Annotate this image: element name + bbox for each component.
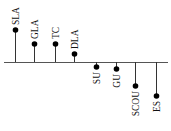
dot-marker <box>53 41 59 47</box>
lollipop-scou: SCOU <box>131 62 141 116</box>
category-label: GLA <box>30 19 40 39</box>
lollipop-chart: SLAGLATCDLASUGUSCOUES <box>0 0 171 131</box>
category-label: SU <box>92 72 102 84</box>
dot-marker <box>94 64 100 70</box>
chart-items: SLAGLATCDLASUGUSCOUES <box>11 7 162 116</box>
dot-marker <box>13 27 19 33</box>
category-label: SCOU <box>131 91 141 116</box>
lollipop-tc: TC <box>51 27 61 62</box>
lollipop-es: ES <box>152 62 162 112</box>
lollipop-gla: GLA <box>30 19 40 62</box>
category-label: SLA <box>11 7 21 25</box>
lollipop-su: SU <box>92 62 102 84</box>
category-label: DLA <box>70 29 80 49</box>
category-label: GU <box>112 74 122 88</box>
lollipop-sla: SLA <box>11 7 21 62</box>
dot-marker <box>154 93 160 99</box>
category-label: TC <box>51 27 61 39</box>
dot-marker <box>72 51 78 57</box>
dot-marker <box>32 41 38 47</box>
dot-marker <box>133 83 139 89</box>
lollipop-dla: DLA <box>70 29 80 62</box>
lollipop-gu: GU <box>112 62 122 88</box>
dot-marker <box>114 66 120 72</box>
category-label: ES <box>152 101 162 112</box>
